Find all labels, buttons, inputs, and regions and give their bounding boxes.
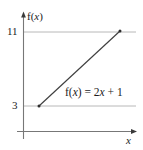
x-axis-label: x	[126, 135, 131, 146]
x-axis-arrowhead-icon	[131, 129, 137, 134]
line-endpoint-upper	[119, 30, 122, 33]
equation-f-open: f(	[65, 86, 73, 98]
y-tick-label-11: 11	[7, 26, 18, 37]
y-axis-label: f(x)	[27, 11, 43, 22]
y-tick-label-3: 3	[12, 100, 18, 111]
line-endpoint-lower	[38, 105, 41, 108]
equation-tail: + 1	[105, 86, 123, 98]
y-axis-arrowhead-icon	[21, 12, 26, 18]
equation-annotation: f(x) = 2x + 1	[65, 87, 123, 99]
plot-canvas	[0, 0, 143, 150]
equation-close-equals: ) = 2	[78, 86, 100, 98]
function-graph-figure: f(x) x 11 3 f(x) = 2x + 1	[0, 0, 143, 150]
